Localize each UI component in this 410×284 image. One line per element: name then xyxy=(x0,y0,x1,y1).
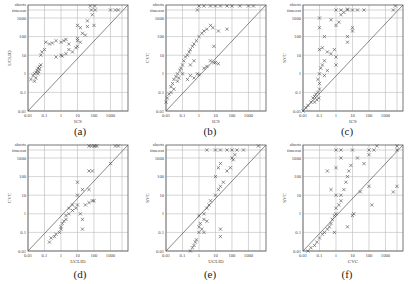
data-point xyxy=(189,63,192,66)
data-point xyxy=(349,164,352,167)
data-point xyxy=(219,235,222,238)
svg-text:1: 1 xyxy=(60,113,63,118)
svg-text:0.1: 0.1 xyxy=(42,113,48,118)
svg-text:1: 1 xyxy=(24,71,27,76)
svg-text:10: 10 xyxy=(296,53,301,58)
data-point xyxy=(84,203,87,206)
data-point xyxy=(328,225,331,228)
data-point xyxy=(217,188,220,191)
x-axis-label: UCLID xyxy=(208,259,224,264)
data-point xyxy=(84,34,87,37)
data-point xyxy=(329,18,332,21)
diagonal-line xyxy=(303,145,403,251)
svg-text:1000: 1000 xyxy=(244,253,254,258)
data-point xyxy=(339,199,342,202)
data-point xyxy=(329,222,332,225)
svg-text:100: 100 xyxy=(157,174,165,179)
svg-text:0.1: 0.1 xyxy=(295,90,301,95)
svg-text:1: 1 xyxy=(299,211,302,216)
svg-text:100: 100 xyxy=(19,174,27,179)
plot-area: 0.010.11101001000timeoutaborts0.010.1110… xyxy=(166,5,266,111)
svg-text:aborts: aborts xyxy=(153,2,164,7)
data-point xyxy=(67,207,70,210)
data-point xyxy=(225,28,228,31)
data-point xyxy=(359,190,362,193)
data-point xyxy=(317,96,320,99)
svg-text:1: 1 xyxy=(198,113,201,118)
data-point xyxy=(323,74,326,77)
svg-text:0.1: 0.1 xyxy=(317,113,323,118)
svg-text:timeout: timeout xyxy=(150,8,165,13)
data-point xyxy=(331,218,334,221)
data-point xyxy=(192,59,195,62)
data-point xyxy=(370,203,373,206)
svg-text:1000: 1000 xyxy=(17,16,27,21)
data-point xyxy=(54,39,57,42)
svg-text:timeout: timeout xyxy=(12,148,27,153)
svg-text:0.01: 0.01 xyxy=(299,253,308,258)
svg-text:1000: 1000 xyxy=(106,113,116,118)
y-axis-label: SVC xyxy=(145,192,150,202)
data-point xyxy=(33,80,36,83)
data-point xyxy=(229,166,232,169)
data-point xyxy=(87,169,90,172)
svg-text:1: 1 xyxy=(335,113,338,118)
data-point xyxy=(79,41,82,44)
data-point xyxy=(209,59,212,62)
svg-text:10: 10 xyxy=(213,113,218,118)
svg-text:0.01: 0.01 xyxy=(162,253,171,258)
data-point xyxy=(326,50,329,53)
data-point xyxy=(54,55,57,58)
data-point xyxy=(342,188,345,191)
plot-area: 0.010.11101001000timeoutaborts0.010.1110… xyxy=(303,5,403,111)
data-point xyxy=(86,19,89,22)
data-point xyxy=(344,181,347,184)
data-point xyxy=(362,162,365,165)
data-point xyxy=(202,29,205,32)
svg-text:aborts: aborts xyxy=(15,142,26,147)
data-point xyxy=(205,220,208,223)
svg-text:0.01: 0.01 xyxy=(299,113,308,118)
data-point xyxy=(200,228,203,231)
panel-caption: (c) xyxy=(327,125,367,137)
diagonal-line xyxy=(28,5,128,111)
data-point xyxy=(192,76,195,79)
data-point xyxy=(86,25,89,28)
data-point xyxy=(195,39,198,42)
svg-text:1000: 1000 xyxy=(292,16,302,21)
svg-text:10: 10 xyxy=(159,53,164,58)
data-point xyxy=(321,46,324,49)
svg-text:1000: 1000 xyxy=(17,156,27,161)
data-point xyxy=(337,21,340,24)
data-point xyxy=(91,13,94,16)
svg-text:0.1: 0.1 xyxy=(317,253,323,258)
svg-text:1000: 1000 xyxy=(106,253,116,258)
plot-area: 0.010.11101001000timeoutaborts0.010.1110… xyxy=(28,5,128,111)
data-point xyxy=(71,209,74,212)
svg-text:1: 1 xyxy=(162,71,165,76)
svg-text:0.1: 0.1 xyxy=(20,90,26,95)
x-axis-label: ICS xyxy=(349,119,357,124)
data-point xyxy=(219,185,222,188)
svg-text:100: 100 xyxy=(366,253,374,258)
panel-caption: (e) xyxy=(190,268,230,280)
svg-text:aborts: aborts xyxy=(15,2,26,7)
svg-text:timeout: timeout xyxy=(287,8,302,13)
data-point xyxy=(67,48,70,51)
svg-text:10: 10 xyxy=(350,253,355,258)
data-point xyxy=(74,207,77,210)
panel-caption: (a) xyxy=(60,125,100,137)
svg-text:100: 100 xyxy=(366,113,374,118)
svg-text:10: 10 xyxy=(75,113,80,118)
data-point xyxy=(212,45,215,48)
svg-text:1000: 1000 xyxy=(381,113,391,118)
svg-text:1: 1 xyxy=(198,253,201,258)
svg-text:1000: 1000 xyxy=(381,253,391,258)
svg-text:0.1: 0.1 xyxy=(180,113,186,118)
data-point xyxy=(333,48,336,51)
data-point xyxy=(71,50,74,53)
y-axis-label: CVC xyxy=(7,192,12,203)
data-point xyxy=(217,166,220,169)
data-point xyxy=(48,42,51,45)
svg-text:100: 100 xyxy=(91,113,99,118)
